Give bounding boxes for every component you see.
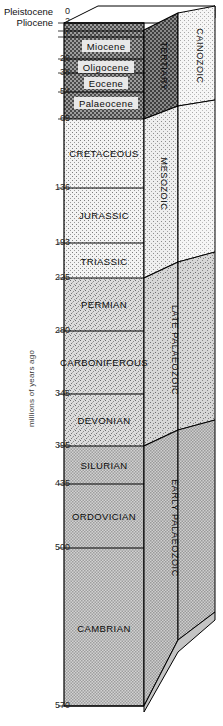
period-label-silurian: SILURIAN — [80, 460, 127, 471]
epoch-label-palaeocene: Palaeocene — [79, 98, 133, 109]
tick-570: 570 — [55, 701, 70, 710]
epoch-label-oligocene: Oligocene — [83, 62, 129, 73]
era-label-late-palaeozoic: LATE PALAEOZOIC — [170, 305, 180, 395]
epoch-label-pliocene: Pliocene — [17, 18, 53, 28]
chrono-stratigraphic-chart: Miocene Oligocene Eocene Palaeocene CRET… — [0, 0, 223, 726]
tick-136: 136 — [55, 183, 70, 192]
system-labels: TERTIARY — [159, 42, 169, 91]
period-label-triassic: TRIASSIC — [80, 256, 127, 267]
period-label-cretaceous: CRETACEOUS — [69, 148, 138, 159]
tick-0: 0 — [65, 7, 70, 16]
era-column-late-palaeozoic — [178, 252, 215, 430]
tick-7: 7 — [65, 27, 70, 36]
era-column-mesozoic — [178, 100, 215, 262]
era-label-cainozoic: CAINOZOIC — [195, 28, 205, 83]
tick-65: 65 — [60, 114, 70, 123]
system-label-tertiary: TERTIARY — [159, 42, 169, 91]
axis-caption: millions of years ago — [27, 334, 36, 444]
period-label-carboniferous: CARBONIFEROUS — [60, 357, 148, 368]
epoch-label-miocene: Miocene — [87, 41, 126, 52]
tick-500: 500 — [55, 543, 70, 552]
tick-54: 54 — [60, 87, 70, 96]
tick-225: 225 — [55, 273, 70, 282]
tick-38: 38 — [60, 68, 70, 77]
front-early-palaeozoic — [64, 446, 144, 706]
era-label-early-palaeozoic: EARLY PALAEOZOIC — [170, 479, 180, 577]
period-label-ordovician: ORDOVICIAN — [72, 511, 136, 522]
tick-26: 26 — [60, 54, 70, 63]
epoch-label-pleistocene: Pleistocene — [4, 7, 53, 17]
era-label-mesozoic: MESOZOIC — [159, 158, 169, 211]
period-label-cambrian: CAMBRIAN — [77, 623, 130, 634]
front-mesozoic — [64, 119, 144, 278]
tick-2: 2 — [65, 17, 70, 26]
epoch-label-eocene: Eocene — [89, 78, 124, 89]
tick-345: 345 — [55, 389, 70, 398]
tick-193: 193 — [55, 238, 70, 247]
era-column-early-palaeozoic — [178, 420, 215, 640]
tick-395: 395 — [55, 441, 70, 450]
period-label-jurassic: JURASSIC — [79, 210, 129, 221]
tick-280: 280 — [55, 326, 70, 335]
period-label-permian: PERMIAN — [81, 299, 127, 310]
period-label-devonian: DEVONIAN — [78, 415, 131, 426]
tick-435: 435 — [55, 479, 70, 488]
